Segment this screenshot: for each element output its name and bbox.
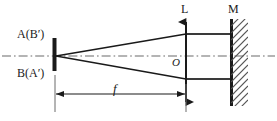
label-lens-center: O (172, 57, 180, 68)
ray-upper-diverging (56, 34, 186, 56)
optics-ray-diagram: A(B′) B(A′) L M O f (0, 0, 277, 121)
mirror-hatching (231, 9, 248, 121)
label-focal-length: f (113, 82, 117, 95)
ray-lower-diverging (56, 56, 186, 79)
label-mirror: M (228, 3, 239, 15)
label-lens: L (181, 3, 188, 15)
label-object-top: A(B′) (17, 28, 44, 40)
label-object-bottom: B(A′) (17, 67, 44, 79)
diagram-canvas (0, 0, 277, 121)
